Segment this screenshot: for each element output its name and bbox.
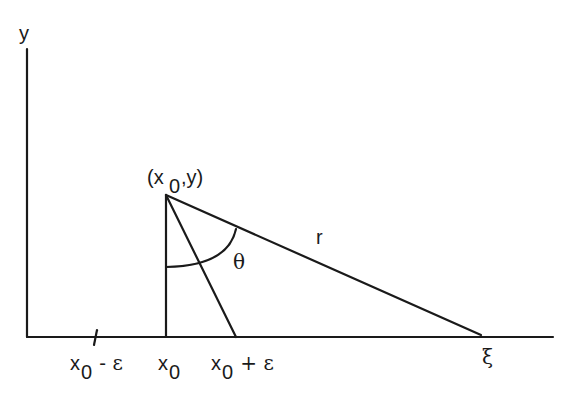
label-base: ξ [482,345,493,369]
label-sub: 0 [169,361,180,383]
point-label-sub: 0 [169,175,180,197]
label-suffix: - ε [93,351,123,375]
label-x0-plus-eps: x 0 + ε [211,351,274,383]
y-axis-label: y [19,22,29,44]
tick-x0-minus-eps [94,330,97,345]
segment-r [166,195,481,335]
label-sub: 0 [222,361,233,383]
theta-arc [166,229,236,267]
label-base: x [158,352,168,374]
r-label: r [316,226,323,248]
point-label-close: ,y) [181,166,203,188]
theta-label: θ [233,250,245,274]
point-label-open: (x [147,166,164,188]
point-label: (x 0 ,y) [147,166,203,197]
label-x0-minus-eps: x 0 - ε [70,351,123,383]
geometry-diagram: y (x 0 ,y) r θ x 0 - ε x 0 x 0 + ε ξ [0,0,572,398]
label-sub: 0 [81,361,92,383]
label-suffix: + ε [234,351,274,375]
label-base: x [211,352,221,374]
label-base: x [70,352,80,374]
label-xi: ξ [482,345,493,369]
label-x0: x 0 [158,352,180,383]
